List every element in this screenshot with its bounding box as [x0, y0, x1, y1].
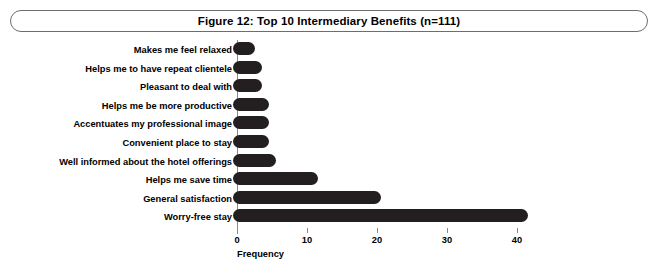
x-tick-label: 40 [497, 235, 537, 245]
bar-category-label: Well informed about the hotel offerings [42, 156, 232, 168]
bar-row: Pleasant to deal with [0, 79, 658, 97]
bar-row: Worry-free stay [0, 209, 658, 227]
bar-row: Well informed about the hotel offerings [0, 154, 658, 172]
bar-row: Accentuates my professional image [0, 116, 658, 134]
bar-category-label: Helps me save time [42, 174, 232, 186]
bar-value-9 [233, 209, 528, 222]
bar-category-label: Pleasant to deal with [42, 81, 232, 93]
bar-value-2 [233, 79, 262, 92]
bar-category-label: Makes me feel relaxed [42, 44, 232, 56]
x-tick-mark [517, 228, 518, 233]
x-tick-mark [447, 228, 448, 233]
bar-value-6 [233, 154, 276, 167]
bar-value-7 [233, 172, 318, 185]
bar-value-4 [233, 116, 269, 129]
bar-category-label: Accentuates my professional image [42, 118, 232, 130]
x-tick-mark [377, 228, 378, 233]
x-tick-label: 10 [287, 235, 327, 245]
bar-category-label: Convenient place to stay [42, 137, 232, 149]
bar-row: Helps me be more productive [0, 98, 658, 116]
bar-value-1 [233, 61, 262, 74]
x-tick-mark [307, 228, 308, 233]
bar-chart: Makes me feel relaxed Helps me to have r… [0, 38, 658, 273]
bar-row: Helps me save time [0, 172, 658, 190]
bar-value-8 [233, 191, 381, 204]
bar-row: Helps me to have repeat clientele [0, 61, 658, 79]
bar-value-3 [233, 98, 269, 111]
bar-row: Convenient place to stay [0, 135, 658, 153]
x-tick-label: 30 [427, 235, 467, 245]
bar-category-label: Helps me be more productive [42, 100, 232, 112]
x-axis-title: Frequency [237, 249, 284, 259]
x-tick-mark [237, 228, 238, 233]
bar-category-label: Worry-free stay [42, 211, 232, 223]
x-tick-label: 0 [217, 235, 257, 245]
bar-row: General satisfaction [0, 191, 658, 209]
figure-title-banner: Figure 12: Top 10 Intermediary Benefits … [10, 10, 648, 32]
bar-value-5 [233, 135, 269, 148]
bar-category-label: Helps me to have repeat clientele [42, 63, 232, 75]
bar-row: Makes me feel relaxed [0, 42, 658, 60]
figure-title: Figure 12: Top 10 Intermediary Benefits … [198, 15, 460, 27]
bar-value-0 [233, 42, 255, 55]
x-tick-label: 20 [357, 235, 397, 245]
bar-category-label: General satisfaction [42, 193, 232, 205]
